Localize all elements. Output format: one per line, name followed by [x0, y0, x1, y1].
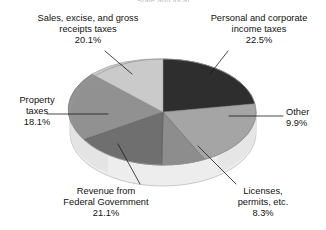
label-federal-line1: Revenue from [77, 186, 135, 196]
label-revenue-from-federal-government: Revenue from Federal Government 21.1% [42, 186, 170, 220]
label-other: Other 9.9% [286, 107, 326, 129]
label-licenses-line2: permits, etc. [238, 197, 289, 207]
label-sales-excise-gross-receipts-taxes: Sales, excise, and gross receipts taxes … [14, 13, 162, 47]
label-property-taxes: Property taxes 18.1% [6, 95, 68, 129]
label-licenses-percent: 8.3% [216, 208, 310, 219]
label-federal-line2: Federal Government [63, 197, 148, 207]
label-licenses-permits-etc: Licenses, permits, etc. 8.3% [216, 186, 310, 220]
label-other-line1: Other [286, 107, 309, 117]
label-personal-percent: 22.5% [196, 35, 322, 46]
label-personal-corporate-income-taxes: Personal and corporate income taxes 22.5… [196, 13, 322, 47]
pie-chart-figure: State and local [0, 0, 326, 230]
label-personal-line1: Personal and corporate [211, 13, 308, 23]
label-licenses-line1: Licenses, [243, 186, 282, 196]
pie-top-face [68, 59, 256, 165]
label-property-line1: Property [19, 95, 54, 105]
label-personal-line2: income taxes [232, 24, 287, 34]
label-other-percent: 9.9% [286, 118, 326, 129]
label-property-line2: taxes [26, 106, 48, 116]
pie-slice-personal-income-taxes [163, 59, 255, 112]
label-sales-line2: receipts taxes [59, 24, 116, 34]
label-property-percent: 18.1% [6, 117, 68, 128]
label-sales-line1: Sales, excise, and gross [38, 13, 139, 23]
label-sales-percent: 20.1% [14, 35, 162, 46]
label-federal-percent: 21.1% [42, 208, 170, 219]
